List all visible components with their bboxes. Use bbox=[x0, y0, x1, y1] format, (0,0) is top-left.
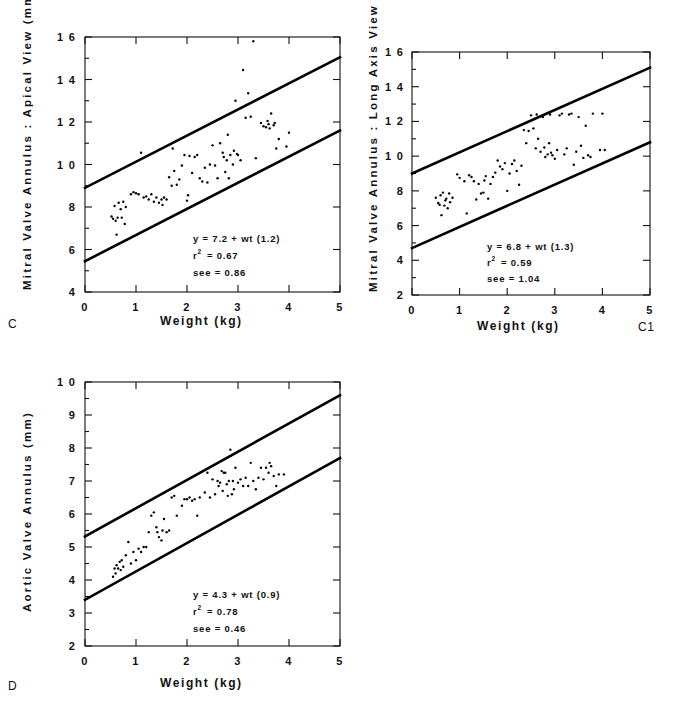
data-point bbox=[257, 477, 259, 479]
data-point bbox=[206, 181, 208, 183]
data-point bbox=[150, 514, 152, 516]
data-point bbox=[155, 196, 157, 198]
data-point bbox=[163, 518, 165, 520]
r-squared-label-C1: r2= 0.59 bbox=[487, 255, 532, 268]
data-point bbox=[125, 554, 127, 556]
scatter-plot-C1: Mitral Valve Annulus : Long Axis View (m… bbox=[355, 0, 691, 345]
x-tick-label: 1 bbox=[132, 655, 139, 667]
data-point bbox=[234, 467, 236, 469]
data-points-C bbox=[110, 40, 290, 236]
data-point bbox=[140, 152, 142, 154]
data-point bbox=[451, 197, 453, 199]
data-point bbox=[439, 194, 441, 196]
regression-band-C bbox=[85, 57, 340, 261]
data-points-D bbox=[112, 448, 285, 577]
data-point bbox=[160, 198, 162, 200]
data-point bbox=[173, 495, 175, 497]
scatter-plot-C: Mitral Valve Annulus : Apical View (mm) … bbox=[0, 0, 355, 345]
data-point bbox=[176, 514, 178, 516]
data-point bbox=[242, 485, 244, 487]
data-point bbox=[266, 120, 268, 122]
data-point bbox=[255, 157, 257, 159]
data-point bbox=[558, 114, 560, 116]
y-tick-label: 1 2 bbox=[57, 116, 76, 128]
y-tick-label: 4 bbox=[397, 254, 404, 266]
y-axis-title-C1: Mitral Valve Annulus : Long Axis View (m… bbox=[367, 0, 379, 292]
data-point bbox=[438, 204, 440, 206]
data-point bbox=[168, 176, 170, 178]
y-tick-label: 1 0 bbox=[57, 159, 76, 171]
data-point bbox=[511, 163, 513, 165]
x-tick-label: 3 bbox=[551, 304, 558, 316]
data-point bbox=[250, 462, 252, 464]
x-tick-label: 2 bbox=[183, 655, 190, 667]
y-tick-label: 8 bbox=[69, 442, 76, 454]
data-point bbox=[508, 172, 510, 174]
x-tick-label: 1 bbox=[456, 304, 463, 316]
svg-text:y = 6.8 + wt (1.3): y = 6.8 + wt (1.3) bbox=[487, 241, 574, 252]
y-tick-label: 3 bbox=[69, 607, 76, 619]
data-point bbox=[520, 164, 522, 166]
data-point bbox=[219, 481, 221, 483]
data-point bbox=[265, 467, 267, 469]
data-point bbox=[227, 495, 229, 497]
data-point bbox=[506, 190, 508, 192]
data-point bbox=[158, 202, 160, 204]
r-squared-label-C: r2= 0.67 bbox=[193, 248, 238, 261]
data-point bbox=[160, 539, 162, 541]
svg-text:Mitral Valve Annulus : Api: Mitral Valve Annulus : Apical View (mm) bbox=[21, 0, 33, 290]
data-point bbox=[204, 491, 206, 493]
y-tick-label: 4 bbox=[69, 286, 76, 298]
data-point bbox=[470, 176, 472, 178]
data-point bbox=[267, 472, 269, 474]
data-point bbox=[233, 488, 235, 490]
data-point bbox=[155, 526, 157, 528]
data-point bbox=[539, 151, 541, 153]
data-point bbox=[575, 151, 577, 153]
data-point bbox=[440, 214, 442, 216]
data-point bbox=[122, 566, 124, 568]
data-point bbox=[168, 529, 170, 531]
data-point bbox=[445, 197, 447, 199]
data-point bbox=[116, 216, 118, 218]
x-tick-label: 2 bbox=[183, 301, 190, 313]
data-point bbox=[554, 158, 556, 160]
y-tick-label: 7 bbox=[69, 475, 76, 487]
data-point bbox=[114, 220, 116, 222]
y-tick-label: 1 4 bbox=[57, 74, 76, 86]
x-tick-label: 0 bbox=[81, 301, 88, 313]
data-point bbox=[224, 472, 226, 474]
data-point bbox=[153, 511, 155, 513]
data-point bbox=[527, 130, 529, 132]
x-tick-label: 0 bbox=[81, 655, 88, 667]
data-point bbox=[592, 112, 594, 114]
data-point bbox=[222, 490, 224, 492]
data-point bbox=[262, 125, 264, 127]
data-point bbox=[219, 142, 221, 144]
data-point bbox=[244, 477, 246, 479]
data-point bbox=[156, 531, 158, 533]
data-point bbox=[142, 196, 144, 198]
data-point bbox=[516, 170, 518, 172]
data-point bbox=[132, 191, 134, 193]
data-point bbox=[577, 116, 579, 118]
y-tick-label: 1 6 bbox=[385, 46, 404, 58]
data-point bbox=[544, 156, 546, 158]
annotation-block-D: y = 4.3 + wt (0.9) r2= 0.78 see = 0.46 bbox=[193, 589, 280, 634]
data-point bbox=[187, 194, 189, 196]
data-point bbox=[161, 529, 163, 531]
data-point bbox=[496, 159, 498, 161]
y-tick-label: 1 0 bbox=[57, 376, 76, 388]
data-point bbox=[171, 496, 173, 498]
data-point bbox=[563, 153, 565, 155]
data-point bbox=[239, 159, 241, 161]
data-point bbox=[122, 200, 124, 202]
data-point bbox=[199, 177, 201, 179]
data-point bbox=[153, 200, 155, 202]
data-point bbox=[435, 197, 437, 199]
data-point bbox=[242, 69, 244, 71]
data-point bbox=[568, 113, 570, 115]
data-point bbox=[115, 233, 117, 235]
x-tick-label: 2 bbox=[504, 304, 511, 316]
data-point bbox=[140, 551, 142, 553]
